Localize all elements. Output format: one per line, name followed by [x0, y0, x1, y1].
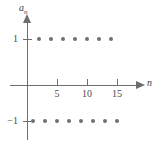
y-tick-1 [23, 39, 32, 40]
data-point [61, 37, 65, 41]
data-point [97, 37, 101, 41]
sequence-scatter-plot: an n 1 −1 5 10 15 [0, 0, 165, 146]
x-tick-label-15: 15 [107, 88, 127, 100]
data-point [49, 37, 53, 41]
y-axis-title: an [19, 2, 28, 16]
x-tick-15 [117, 79, 118, 86]
x-tick-10 [87, 79, 88, 86]
y-tick-label-1: 1 [2, 34, 18, 44]
data-point [115, 119, 119, 123]
data-point [103, 119, 107, 123]
x-axis-title: n [147, 77, 152, 88]
x-tick-label-5: 5 [47, 88, 67, 100]
data-point [79, 119, 83, 123]
data-point [67, 119, 71, 123]
data-point [109, 37, 113, 41]
data-point [43, 119, 47, 123]
x-tick-label-10: 10 [77, 88, 97, 100]
x-tick-5 [57, 79, 58, 86]
y-axis-title-subscript: n [24, 8, 28, 16]
data-point [37, 37, 41, 41]
data-point [73, 37, 77, 41]
data-point [85, 37, 89, 41]
data-point [91, 119, 95, 123]
x-axis-arrow-icon [136, 81, 145, 89]
y-tick-label-minus-1: −1 [2, 116, 18, 126]
data-point [55, 119, 59, 123]
data-point [31, 119, 35, 123]
